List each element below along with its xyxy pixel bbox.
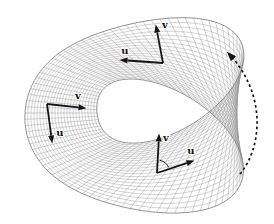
top-v-label: v [161,19,169,30]
left-v-label: v [74,90,82,101]
top-v-vector-arrow-head [154,25,160,33]
rotation-arrow-head [227,52,236,61]
mobius-band-edges [25,18,244,213]
bottom-v-vector-arrow-head [156,134,162,142]
bottom-u-label: u [187,145,194,156]
top-u-label: u [121,45,128,56]
top-u-vector-arrow [128,61,164,64]
top-v-vector-arrow [157,32,163,63]
bottom-v-label: v [162,132,170,143]
left-u-label: u [56,127,63,138]
bottom-u-vector-arrow [157,163,187,173]
mobius-figure: uvuvuv [0,0,274,224]
figure-canvas: uvuvuv [0,0,274,224]
mobius-mesh-rulings [25,18,244,213]
